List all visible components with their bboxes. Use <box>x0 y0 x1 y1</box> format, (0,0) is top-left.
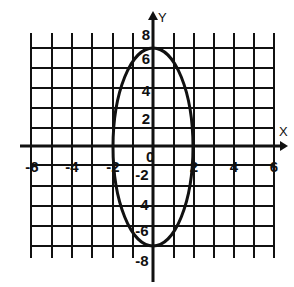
y-tick-label: -2 <box>135 166 148 183</box>
y-tick-label: 6 <box>142 50 150 67</box>
x-tick-label: -2 <box>106 158 119 175</box>
axes <box>20 11 288 282</box>
x-tick-label: 4 <box>230 158 239 175</box>
chart-area: XY0-6-4-22468642-2-4-6-8 <box>0 0 294 287</box>
x-tick-label: 6 <box>270 158 278 175</box>
y-axis-arrow-icon <box>148 11 158 20</box>
y-tick-label: 4 <box>142 82 151 99</box>
x-tick-label: -6 <box>25 158 38 175</box>
x-tick-label: -4 <box>65 158 79 175</box>
origin-label: 0 <box>146 148 154 165</box>
y-axis-label: Y <box>158 10 167 25</box>
x-tick-label: 2 <box>190 158 198 175</box>
ellipse-graph: XY0-6-4-22468642-2-4-6-8 <box>0 0 294 287</box>
x-axis-arrow-icon <box>280 141 288 151</box>
x-axis-label: X <box>279 124 288 139</box>
y-tick-label: -6 <box>135 222 148 239</box>
y-tick-label: 2 <box>142 110 150 127</box>
y-tick-label: 8 <box>142 26 150 43</box>
y-tick-label: -4 <box>135 196 149 213</box>
y-tick-label: -8 <box>135 252 148 269</box>
